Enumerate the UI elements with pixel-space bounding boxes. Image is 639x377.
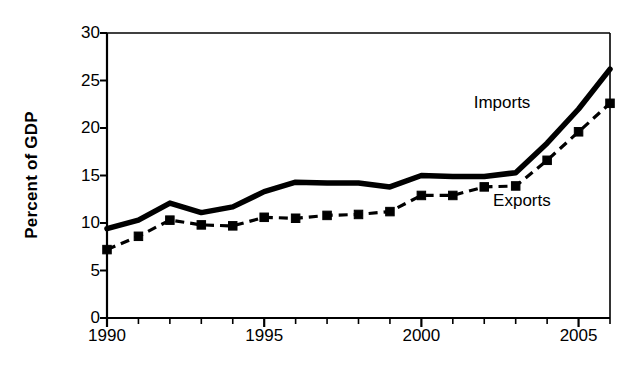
axis-lines [107, 33, 610, 318]
series-annotation-imports: Imports [474, 93, 531, 113]
chart-figure: Percent of GDP 051015202530 199019952000… [0, 0, 639, 377]
series-annotation-exports: Exports [493, 191, 551, 211]
series-markers-exports [103, 99, 615, 254]
plot-area [0, 0, 639, 377]
series-line-exports [107, 103, 610, 249]
x-axis-ticks [107, 318, 610, 327]
